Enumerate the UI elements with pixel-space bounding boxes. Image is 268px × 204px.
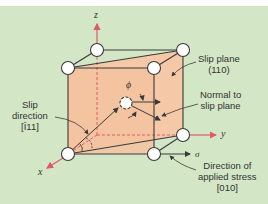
sigma-label: σ [195,149,199,159]
atom-top-front-left [62,62,75,75]
stress-leader [170,156,196,170]
atom-top-back-left [91,44,104,57]
atom-center [120,97,132,109]
atom-top-front-right [148,62,161,75]
slip-plane-label: Slip plane (110) [198,53,240,75]
slip-direction-label: Slip direction [Ī11] [12,99,48,132]
x-axis [47,158,63,168]
atom-bottom-front-right [148,148,161,161]
z-axis-label: z [94,9,98,20]
atom-bottom-back-right [177,129,190,142]
x-axis-label: x [38,166,42,177]
phi-label: ϕ [126,79,131,90]
y-axis-label: y [221,128,225,139]
stress-direction-label: Direction of applied stress [010] [198,160,257,193]
atom-top-back-right [177,44,190,57]
normal-label: Normal to slip plane [200,89,241,111]
slip-system-diagram: z y x ϕ σ Slip plane (110) Normal to sli… [0,0,268,204]
atom-bottom-front-left [62,148,75,161]
